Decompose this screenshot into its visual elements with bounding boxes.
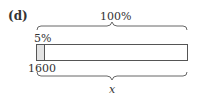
tape-bar [37,45,188,61]
shaded-segment [37,45,44,60]
tape-diagram [0,0,198,100]
part-percent-label: 5% [34,33,51,44]
bottom-brace [37,72,187,80]
bottom-brace-label: x [109,84,115,95]
part-value-label: 1600 [28,63,56,74]
top-brace [37,22,187,30]
